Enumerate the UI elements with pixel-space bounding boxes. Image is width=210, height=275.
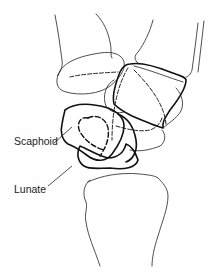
scaphoid-label: Scaphoid [14,136,58,147]
lunate-label: Lunate [14,184,46,195]
lunate-leader-line [48,166,72,186]
wrist-bone-diagram: Scaphoid Lunate [0,0,210,275]
